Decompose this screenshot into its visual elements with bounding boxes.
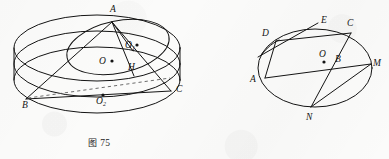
cylinder-top-ellipse	[14, 15, 180, 81]
label-point-o1-subscript: 1	[132, 45, 135, 51]
figure-75-caption-prefix: 图	[88, 138, 97, 148]
figure-75: A B C O O 1 O 2 H 图 75	[0, 0, 195, 135]
label-point-o2-group: O 2	[96, 96, 106, 107]
label-point-o2-subscript: 2	[103, 101, 106, 107]
segment-a-c	[112, 22, 171, 91]
figure-76: A B C D E M N O 图 76	[195, 0, 389, 135]
figure-page: A B C O O 1 O 2 H 图 75	[0, 0, 389, 159]
tangent-arc-at-d	[261, 40, 279, 55]
label-point-o1-group: O 1	[125, 40, 135, 51]
point-dot-o1	[135, 43, 138, 46]
label-point-o2: O	[96, 96, 103, 106]
label-point-a: A	[109, 4, 116, 14]
point-dot-o-fig76	[322, 60, 325, 63]
label-point-n-fig76: N	[305, 112, 313, 122]
label-point-m-fig76: M	[372, 58, 382, 68]
label-point-b: B	[22, 100, 28, 110]
label-point-h: H	[127, 62, 136, 72]
label-point-o-fig76: O	[319, 49, 326, 59]
label-point-b-fig76: B	[335, 54, 341, 64]
label-point-o: O	[99, 56, 106, 66]
figure-76-drawing: A B C D E M N O	[195, 0, 389, 135]
main-ellipse	[258, 29, 372, 107]
point-dot-o	[110, 59, 113, 62]
inscribed-circle-o1-ellipse	[62, 11, 175, 83]
figure-75-caption-number: 75	[100, 138, 110, 148]
chord-n-c	[311, 33, 351, 107]
label-point-a-fig76: A	[249, 74, 256, 84]
figure-75-drawing: A B C O O 1 O 2 H	[0, 0, 195, 135]
label-point-d-fig76: D	[261, 28, 269, 38]
label-point-e-fig76: E	[320, 15, 327, 25]
label-point-o1: O	[125, 40, 132, 50]
label-point-c: C	[176, 84, 183, 94]
figure-75-caption: 图 75	[88, 136, 111, 149]
label-point-c-fig76: C	[347, 18, 354, 28]
